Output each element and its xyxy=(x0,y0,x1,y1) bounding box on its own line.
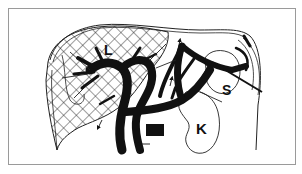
label-kidney: K xyxy=(196,120,207,137)
label-liver: L xyxy=(104,42,113,58)
clamp-block xyxy=(146,124,164,136)
liver-vascular-diagram: L S K xyxy=(0,0,302,174)
label-spleen: S xyxy=(222,82,231,98)
